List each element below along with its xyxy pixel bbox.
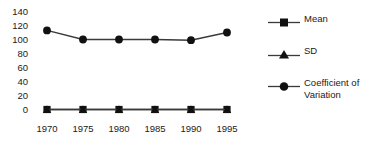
legend-item-coefficient-of-variation[interactable]: Coefficient of Variation — [268, 78, 367, 110]
triangle-marker-icon — [268, 49, 300, 60]
chart-legend: Mean SD Coefficient of Variation — [268, 14, 367, 110]
legend-item-mean[interactable]: Mean — [268, 14, 367, 46]
legend-item-sd[interactable]: SD — [268, 46, 367, 78]
legend-label-coefficient-of-variation: Coefficient of Variation — [304, 77, 367, 100]
legend-label-mean: Mean — [304, 13, 367, 25]
square-marker-icon — [268, 17, 300, 28]
series-sd — [43, 105, 231, 113]
chart-figure: 140 120 100 80 60 40 20 0 1970 1975 1980… — [0, 0, 367, 148]
series-coefficient-of-variation — [43, 27, 231, 45]
circle-marker-icon — [268, 81, 300, 92]
legend-label-sd: SD — [304, 45, 367, 57]
